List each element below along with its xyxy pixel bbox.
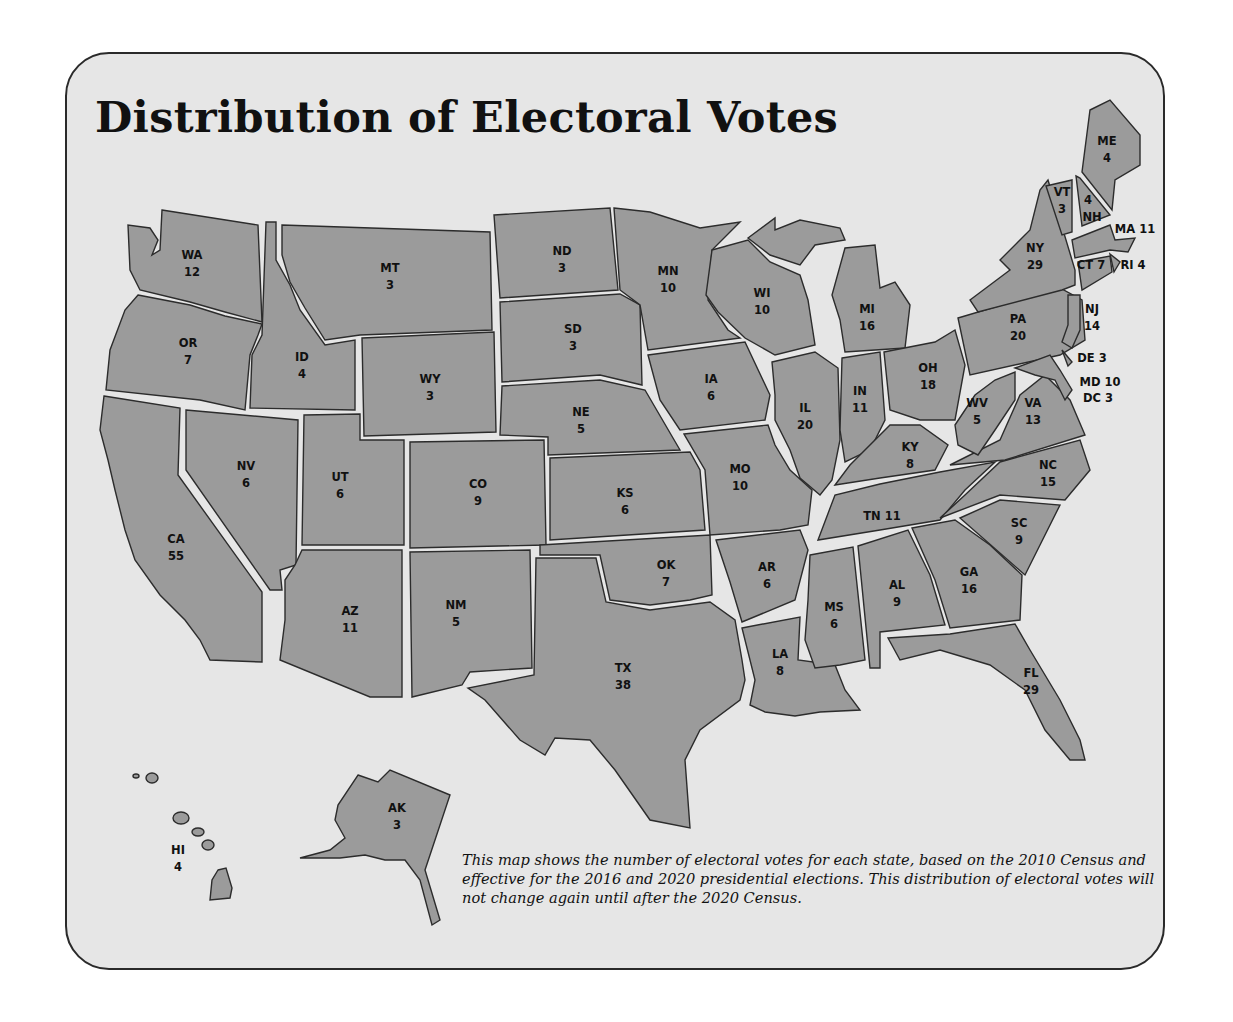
svg-text:CO: CO (469, 477, 487, 491)
svg-text:11: 11 (852, 401, 868, 415)
svg-text:WA: WA (181, 248, 202, 262)
svg-text:3: 3 (569, 339, 577, 353)
hawaii-big-island (210, 868, 232, 900)
svg-text:AR: AR (758, 560, 776, 574)
svg-text:5: 5 (973, 413, 981, 427)
svg-text:OR: OR (179, 336, 198, 350)
state-mi (832, 245, 910, 352)
hawaii-island (133, 774, 139, 778)
svg-text:38: 38 (615, 678, 631, 692)
svg-text:WY: WY (419, 372, 441, 386)
state-ak (300, 770, 450, 925)
svg-text:7: 7 (662, 575, 670, 589)
svg-text:3: 3 (558, 261, 566, 275)
svg-text:CT 7: CT 7 (1077, 258, 1105, 272)
svg-text:4: 4 (1103, 151, 1111, 165)
svg-text:10: 10 (732, 479, 748, 493)
svg-text:4: 4 (298, 367, 306, 381)
svg-text:18: 18 (920, 378, 936, 392)
svg-text:11: 11 (342, 621, 358, 635)
svg-text:VA: VA (1024, 396, 1041, 410)
svg-text:SC: SC (1011, 516, 1028, 530)
svg-text:AL: AL (889, 578, 906, 592)
svg-text:WI: WI (754, 286, 771, 300)
svg-text:16: 16 (859, 319, 875, 333)
svg-text:9: 9 (474, 494, 482, 508)
svg-text:14: 14 (1084, 319, 1100, 333)
hawaii-island (202, 840, 214, 850)
svg-text:RI 4: RI 4 (1120, 258, 1145, 272)
svg-text:GA: GA (960, 565, 978, 579)
svg-text:KS: KS (616, 486, 633, 500)
svg-text:6: 6 (707, 389, 715, 403)
svg-text:FL: FL (1023, 666, 1039, 680)
svg-text:LA: LA (772, 647, 788, 661)
svg-text:9: 9 (1015, 533, 1023, 547)
svg-text:6: 6 (830, 617, 838, 631)
svg-text:20: 20 (797, 418, 813, 432)
svg-text:IA: IA (704, 372, 717, 386)
svg-text:10: 10 (754, 303, 770, 317)
state-nm (410, 550, 532, 697)
svg-text:NC: NC (1039, 458, 1057, 472)
svg-text:5: 5 (577, 422, 585, 436)
svg-text:3: 3 (426, 389, 434, 403)
svg-text:6: 6 (336, 487, 344, 501)
state-fl (888, 624, 1085, 760)
svg-text:IN: IN (853, 384, 867, 398)
svg-text:MT: MT (380, 261, 399, 275)
svg-text:5: 5 (452, 615, 460, 629)
svg-text:MN: MN (657, 264, 678, 278)
hawaii-island (146, 773, 158, 783)
svg-text:AZ: AZ (341, 604, 358, 618)
svg-text:TN 11: TN 11 (863, 509, 901, 523)
svg-text:ME: ME (1097, 134, 1116, 148)
state-de (1062, 350, 1072, 366)
state-ia (648, 342, 770, 430)
svg-text:OH: OH (918, 361, 937, 375)
svg-text:PA: PA (1010, 312, 1026, 326)
svg-text:HI: HI (171, 843, 185, 857)
svg-text:10: 10 (660, 281, 676, 295)
svg-text:VT: VT (1054, 185, 1071, 199)
svg-text:WV: WV (966, 396, 988, 410)
svg-text:MA 11: MA 11 (1115, 222, 1155, 236)
svg-text:6: 6 (621, 503, 629, 517)
svg-text:MS: MS (824, 600, 844, 614)
svg-text:OK: OK (657, 558, 677, 572)
svg-text:AK: AK (388, 801, 407, 815)
svg-text:TX: TX (615, 661, 632, 675)
svg-text:16: 16 (961, 582, 977, 596)
svg-text:15: 15 (1040, 475, 1056, 489)
svg-text:8: 8 (906, 457, 914, 471)
svg-text:8: 8 (776, 664, 784, 678)
svg-text:6: 6 (763, 577, 771, 591)
hawaii-island (173, 812, 189, 824)
svg-text:ND: ND (552, 244, 571, 258)
svg-text:IL: IL (799, 401, 811, 415)
svg-text:DC 3: DC 3 (1083, 391, 1113, 405)
svg-text:NJ: NJ (1085, 302, 1099, 316)
state-ar (716, 530, 808, 622)
svg-text:29: 29 (1023, 683, 1039, 697)
svg-text:SD: SD (564, 322, 582, 336)
hawaii-island (192, 828, 204, 836)
svg-text:MO: MO (729, 462, 750, 476)
svg-text:6: 6 (242, 476, 250, 490)
svg-text:55: 55 (168, 549, 184, 563)
svg-text:DE 3: DE 3 (1077, 351, 1106, 365)
svg-text:ID: ID (295, 350, 309, 364)
svg-text:NM: NM (445, 598, 466, 612)
svg-text:NH: NH (1082, 210, 1101, 224)
svg-text:NE: NE (572, 405, 590, 419)
map-caption: This map shows the number of electoral v… (462, 850, 1162, 907)
svg-text:12: 12 (184, 265, 200, 279)
svg-text:MI: MI (859, 302, 875, 316)
svg-text:MD 10: MD 10 (1079, 375, 1120, 389)
svg-text:KY: KY (901, 440, 919, 454)
svg-text:13: 13 (1025, 413, 1041, 427)
svg-text:4: 4 (174, 860, 182, 874)
svg-text:CA: CA (167, 532, 184, 546)
svg-text:29: 29 (1027, 258, 1043, 272)
svg-text:3: 3 (393, 818, 401, 832)
